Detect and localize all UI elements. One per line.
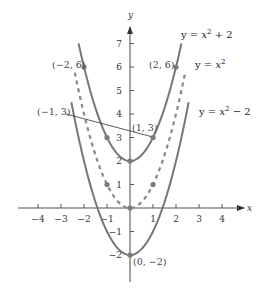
point-label: (−1, 3)	[37, 106, 71, 117]
equation-label: y = x2 + 2	[180, 28, 233, 40]
data-point	[127, 158, 132, 163]
axes: xy−4−3−2−11234−2−11234567	[18, 10, 252, 282]
y-tick-label: 3	[116, 133, 122, 143]
data-point	[104, 182, 109, 187]
x-axis-name: x	[247, 203, 252, 213]
point-label: (1, 3)	[132, 122, 158, 133]
point-label: (0, −2)	[133, 256, 167, 267]
y-tick-label: 1	[116, 180, 122, 190]
y-tick-label: 7	[116, 39, 122, 49]
labels: y = x2 + 2y = x2y = x2 − 2(−2, 6)(2, 6)(…	[37, 28, 251, 267]
data-point	[150, 182, 155, 187]
x-tick-label: −3	[54, 214, 68, 224]
y-tick-label: 6	[116, 62, 122, 72]
point-label: (2, 6)	[149, 59, 175, 70]
equation-label: y = x2	[194, 58, 226, 70]
x-tick-label: −4	[31, 214, 45, 224]
y-axis-name: y	[127, 10, 134, 20]
y-tick-label: 5	[116, 86, 122, 96]
data-point	[127, 205, 132, 210]
x-tick-label: 3	[196, 214, 202, 224]
equation-label: y = x2 − 2	[198, 105, 251, 117]
data-point	[150, 135, 155, 140]
x-tick-label: −2	[77, 214, 90, 224]
y-tick-label: −1	[109, 227, 122, 237]
data-point	[104, 135, 109, 140]
x-tick-label: 4	[219, 214, 225, 224]
y-tick-label: 4	[116, 109, 122, 119]
x-tick-label: 2	[173, 214, 179, 224]
point-label: (−2, 6)	[52, 59, 86, 70]
data-point	[127, 252, 132, 257]
x-tick-label: 1	[150, 214, 156, 224]
parabola-graph: xy−4−3−2−11234−2−11234567 y = x2 + 2y = …	[0, 0, 259, 296]
